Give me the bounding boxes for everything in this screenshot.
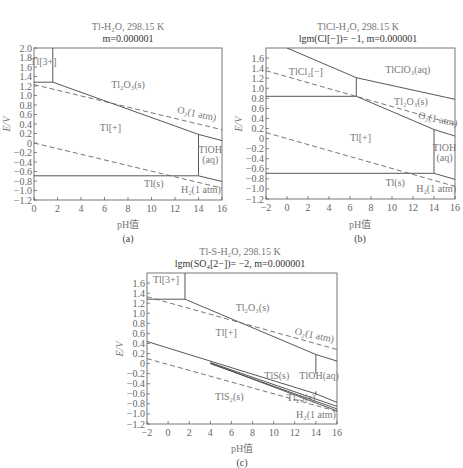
chart-b-region-label: TlClO₃(aq) — [385, 64, 430, 76]
chart-a-region-label: Tl(s) — [144, 178, 163, 190]
chart-b-region-label: (aq) — [436, 152, 452, 164]
chart-a-xtick-label: 12 — [170, 203, 180, 214]
chart-b-xtick-label: 2 — [306, 202, 311, 213]
chart-c-xtick-label: 16 — [332, 427, 342, 438]
chart-a-region-label: (aq) — [202, 154, 218, 166]
chart-c-xtick-label: 6 — [229, 427, 234, 438]
chart-b-xlabel: pH值 — [349, 218, 371, 230]
chart-b-xtick-label: 6 — [348, 202, 353, 213]
chart-c-region-label: O₂(1 atm) — [294, 325, 335, 345]
chart-a-region-label: H₂(1 atm) — [181, 184, 221, 196]
chart-b-subtitle: lgm(Cl[−])= −1, m=0.000001 — [299, 33, 418, 45]
chart-a-region-label: Tl[+] — [100, 122, 121, 133]
chart-a-ytick-label: −1.2 — [14, 195, 32, 206]
chart-c-region-label: Tl[+] — [216, 327, 237, 338]
chart-c-region-label: TlOH(aq) — [299, 370, 338, 382]
chart-b-region-label: Tl[+] — [350, 132, 371, 143]
chart-a-subtitle: m=0.000001 — [103, 33, 154, 44]
chart-b-xtick-label: 16 — [450, 202, 460, 213]
chart-a-xtick-label: 2 — [55, 203, 60, 214]
chart-a-xtick-label: 8 — [126, 203, 131, 214]
chart-b-xtick-label: 10 — [387, 202, 397, 213]
chart-b-xtick-label: 0 — [285, 202, 290, 213]
chart-b-xtick-label: 4 — [327, 202, 332, 213]
chart-c-xtick-label: 4 — [208, 427, 213, 438]
chart-a-xtick-label: 14 — [194, 203, 204, 214]
chart-a-region-label: Tl₂O₃(s) — [111, 79, 145, 91]
chart-a-plot: 2.01.81.61.41.21.00.80.60.40.20−0.2−0.4−… — [14, 43, 227, 215]
chart-b-region-label: H₂(1 atm) — [416, 183, 456, 195]
chart-c-line-tloh-tls-boundary — [316, 394, 337, 403]
chart-a-line-tl2o3-tloh-boundary — [199, 134, 223, 140]
chart-b-region-label: Tl₂O₃(s) — [394, 96, 428, 108]
chart-c-xtick-label: 0 — [166, 427, 171, 438]
chart-c-region-label: Tl[3+] — [153, 274, 179, 285]
chart-c-region-label: Tl₂S(s) — [287, 392, 316, 404]
chart-b-region-label: TlCl₂[−] — [289, 66, 323, 77]
chart-a-ylabel: E/V — [1, 115, 12, 133]
chart-b-line-tloh-tl-boundary — [434, 173, 455, 179]
chart-c-xtick-label: 12 — [290, 427, 300, 438]
chart-a-line-h2-line — [34, 143, 222, 188]
chart-c-subtitle: lgm(SO₄[2−])= −2, m=0.000001 — [175, 258, 305, 270]
chart-a-caption: (a) — [122, 233, 133, 245]
chart-c-region-label: H₂(1 atm) — [296, 409, 336, 421]
chart-b-plot: 1.61.41.21.00.80.60.40.20−0.2−0.4−0.6−0.… — [246, 48, 460, 213]
chart-b-title: TlCl-H₂O, 298.15 K — [317, 21, 400, 32]
chart-b-xtick-label: 12 — [408, 202, 418, 213]
chart-c-xtick-label: −2 — [142, 427, 153, 438]
chart-c-xlabel: pH值 — [231, 442, 253, 454]
chart-b-xtick-label: 14 — [429, 202, 439, 213]
chart-b-xtick-label: 8 — [369, 202, 374, 213]
chart-c-line-tl-tls-boundary — [147, 342, 316, 394]
chart-a: Tl-H₂O, 298.15 K m=0.000001 2.01.81.61.4… — [1, 21, 227, 245]
chart-a-xtick-label: 6 — [102, 203, 107, 214]
chart-c-caption: (c) — [236, 457, 247, 468]
chart-c-region-label: TlS₂(s) — [215, 391, 244, 403]
chart-b-line-tl2o3-tloh-boundary — [434, 130, 455, 137]
chart-c-plot: 1.61.41.21.00.80.60.40.20−0.2−0.4−0.6−0.… — [127, 273, 342, 438]
chart-a-xtick-label: 4 — [79, 203, 84, 214]
chart-a-frame — [34, 48, 222, 200]
chart-c-region-label: TlS(s) — [264, 370, 289, 382]
chart-a-region-label: Tl[3+] — [30, 56, 56, 67]
chart-a-xtick-label: 0 — [32, 203, 37, 214]
chart-a-region-label: O₂(1 atm) — [176, 104, 217, 124]
chart-a-line-tloh-tl-boundary — [199, 176, 223, 182]
chart-a-xtick-label: 10 — [147, 203, 157, 214]
figure-canvas: Tl-H₂O, 298.15 K m=0.000001 2.01.81.61.4… — [0, 0, 463, 468]
chart-a-title: Tl-H₂O, 298.15 K — [92, 21, 165, 32]
chart-b-region-label: O₂(1 atm) — [417, 110, 458, 130]
chart-c-xtick-label: 14 — [311, 427, 321, 438]
chart-b-caption: (b) — [354, 233, 366, 245]
chart-c-xtick-label: 10 — [269, 427, 279, 438]
chart-b-region-label: Tl(s) — [385, 177, 404, 189]
chart-b: TlCl-H₂O, 298.15 K lgm(Cl[−])= −1, m=0.0… — [233, 21, 460, 245]
chart-c-ylabel: E/V — [114, 340, 125, 358]
chart-c-title: Tl-S-H₂O, 298.15 K — [199, 246, 281, 257]
chart-c-xtick-label: 2 — [187, 427, 192, 438]
chart-a-xlabel: pH值 — [117, 218, 139, 230]
chart-a-xtick-label: 16 — [217, 203, 227, 214]
chart-c-region-label: Tl₂O₃(s) — [236, 302, 270, 314]
chart-b-ylabel: E/V — [233, 115, 244, 133]
chart-c: Tl-S-H₂O, 298.15 K lgm(SO₄[2−])= −2, m=0… — [114, 246, 342, 468]
chart-b-xtick-label: −2 — [261, 202, 272, 213]
chart-c-xtick-label: 8 — [250, 427, 255, 438]
chart-c-line-tl2o3-tloh-boundary — [316, 355, 337, 362]
chart-c-line-h2-line — [147, 359, 337, 412]
